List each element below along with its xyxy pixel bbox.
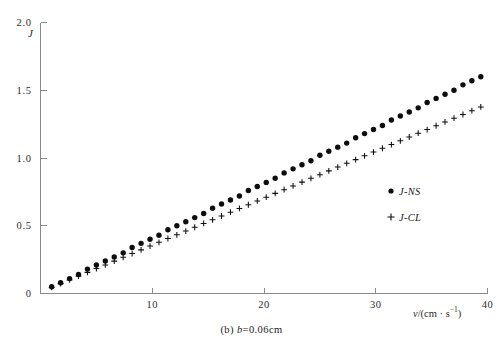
data-point: [380, 145, 386, 151]
data-point: [192, 215, 197, 220]
data-point: [183, 228, 189, 234]
data-point: [451, 88, 456, 93]
x-axis-tick-label: 40: [482, 299, 494, 310]
axis-lines: [41, 23, 488, 294]
x-axis-tick-label: 20: [258, 299, 270, 310]
data-point: [237, 193, 242, 198]
data-point: [353, 157, 359, 163]
scatter-plot: 00.51.01.52.010203040: [0, 0, 503, 346]
data-point: [156, 239, 162, 245]
data-point: [138, 247, 144, 253]
data-point: [165, 236, 171, 242]
y-axis-tick-label: 1.0: [17, 153, 32, 164]
data-point: [201, 221, 207, 227]
data-point: [424, 127, 430, 133]
data-point: [245, 202, 251, 208]
y-axis-label: J: [28, 27, 33, 39]
data-point: [201, 211, 206, 216]
data-point: [263, 194, 269, 200]
data-point: [406, 134, 412, 140]
data-point: [210, 217, 216, 223]
data-point: [281, 170, 286, 175]
data-point: [424, 100, 429, 105]
x-axis-label-suffix: ): [458, 308, 462, 319]
data-point: [299, 162, 304, 167]
data-point: [147, 237, 152, 242]
x-axis-label-body: /(cm: [418, 308, 437, 319]
data-point: [111, 258, 117, 264]
data-point: [353, 135, 358, 140]
data-point: [433, 123, 439, 129]
data-point: [308, 158, 313, 163]
data-point: [228, 197, 233, 202]
data-point: [451, 115, 457, 121]
data-point: [380, 123, 385, 128]
y-axis-tick-label: 0: [26, 288, 32, 299]
data-point: [415, 130, 421, 136]
data-point: [326, 149, 331, 154]
data-point: [326, 168, 332, 174]
data-point: [362, 153, 368, 159]
data-point: [255, 184, 260, 189]
legend-item-j-cl: J-CL: [383, 207, 453, 227]
data-point: [389, 117, 394, 122]
data-point: [308, 175, 314, 181]
data-point: [174, 223, 179, 228]
data-point: [237, 206, 243, 212]
data-point: [389, 142, 395, 148]
data-point: [371, 127, 376, 132]
data-point: [442, 92, 447, 97]
data-point: [120, 254, 126, 260]
data-point: [272, 190, 278, 196]
legend-label-j-ns: J-NS: [399, 186, 421, 197]
data-point: [317, 172, 323, 178]
x-axis-tick-label: 30: [370, 299, 382, 310]
y-axis-tick-label: 0.5: [17, 220, 32, 231]
data-point: [460, 82, 465, 87]
data-point: [129, 251, 135, 257]
y-axis-tick-label: 1.5: [17, 85, 32, 96]
data-point: [460, 112, 466, 118]
figure-caption: (b) b=0.06cm: [0, 324, 503, 335]
data-point: [478, 104, 484, 110]
legend-label-j-cl: J-CL: [399, 212, 421, 223]
data-point: [344, 160, 350, 166]
data-point: [433, 96, 438, 101]
data-point: [183, 219, 188, 224]
data-point: [362, 131, 367, 136]
data-point: [335, 164, 341, 170]
data-point: [407, 109, 412, 114]
plus-icon: [383, 212, 399, 222]
data-point: [138, 241, 143, 246]
data-point: [281, 187, 287, 193]
data-point: [147, 243, 153, 249]
data-point: [246, 188, 251, 193]
data-point: [129, 245, 134, 250]
data-point: [442, 119, 448, 125]
data-point: [398, 113, 403, 118]
data-point: [416, 105, 421, 110]
data-point: [192, 224, 198, 230]
data-point: [344, 140, 349, 145]
data-point: [272, 176, 277, 181]
data-point: [219, 201, 224, 206]
figure-container: 00.51.01.52.010203040 J v/(cm · s−1) J-N…: [0, 0, 503, 346]
data-point: [254, 198, 260, 204]
x-axis-label: v/(cm · s−1): [413, 305, 461, 319]
caption-prefix: (b): [220, 324, 233, 335]
data-point: [397, 138, 403, 144]
legend: J-NS J-CL: [383, 181, 453, 233]
x-axis-label-dot: ·: [440, 308, 444, 319]
data-point: [156, 233, 161, 238]
data-point: [102, 262, 108, 268]
x-axis-label-exponent: −1: [450, 305, 458, 314]
axes-group: 00.51.01.52.010203040: [17, 17, 494, 309]
data-point: [290, 166, 295, 171]
data-point: [299, 179, 305, 185]
legend-item-j-ns: J-NS: [383, 181, 453, 201]
data-point: [210, 205, 215, 210]
data-point: [165, 227, 170, 232]
data-point: [371, 149, 377, 155]
data-point: [219, 213, 225, 219]
data-point: [290, 183, 296, 189]
